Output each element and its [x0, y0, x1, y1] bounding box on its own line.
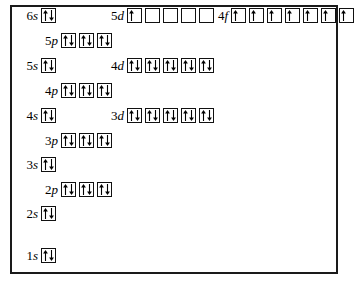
spin-up-arrow-icon [81, 184, 86, 195]
spin-up-arrow-icon [43, 10, 48, 21]
orbital-box [79, 83, 94, 98]
orbital-box [249, 8, 264, 23]
spin-up-arrow-icon [43, 208, 48, 219]
subshell-label-4p: 4p [34, 84, 61, 97]
orbital-box [285, 8, 300, 23]
spin-up-arrow-icon [305, 10, 310, 21]
spin-up-arrow-icon [201, 60, 206, 71]
orbital-box [199, 108, 214, 123]
spin-down-arrow-icon [105, 135, 110, 146]
spin-up-arrow-icon [165, 110, 170, 121]
orbital-box [145, 108, 160, 123]
orbital-box [303, 8, 318, 23]
azimuthal-letter: s [33, 108, 38, 123]
orbital-box-set-5s [41, 58, 56, 73]
spin-up-arrow-icon [43, 110, 48, 121]
spin-down-arrow-icon [49, 10, 54, 21]
orbital-box-set-4d [127, 58, 214, 73]
orbital-box-set-6s [41, 8, 56, 23]
orbital-box [127, 108, 142, 123]
subshell-group-6s: 6s [16, 8, 56, 23]
orbital-box [97, 33, 112, 48]
spin-down-arrow-icon [87, 135, 92, 146]
subshell-label-5d: 5d [100, 9, 127, 22]
orbital-box [163, 108, 178, 123]
spin-down-arrow-icon [49, 60, 54, 71]
orbital-box [145, 8, 160, 23]
spin-down-arrow-icon [171, 60, 176, 71]
subshell-group-4f: 4f [208, 8, 354, 23]
orbital-box [61, 33, 76, 48]
spin-up-arrow-icon [43, 60, 48, 71]
spin-up-arrow-icon [63, 135, 68, 146]
spin-down-arrow-icon [87, 184, 92, 195]
orbital-box-set-5d [127, 8, 214, 23]
orbital-box [41, 108, 56, 123]
subshell-group-5d: 5d [100, 8, 214, 23]
orbital-box [163, 8, 178, 23]
spin-up-arrow-icon [81, 135, 86, 146]
orbital-box-set-2s [41, 206, 56, 221]
orbital-box [61, 182, 76, 197]
orbital-diagram-frame: 6s5d4f5p5s4d4p4s3d3p3s2p2s1s [10, 5, 338, 274]
orbital-box [267, 8, 282, 23]
orbital-box [79, 133, 94, 148]
subshell-label-3s: 3s [16, 158, 41, 171]
spin-up-arrow-icon [99, 184, 104, 195]
orbital-box [339, 8, 354, 23]
spin-down-arrow-icon [207, 60, 212, 71]
orbital-box [61, 83, 76, 98]
subshell-group-5s: 5s [16, 58, 56, 73]
spin-up-arrow-icon [269, 10, 274, 21]
subshell-group-3p: 3p [34, 133, 112, 148]
spin-up-arrow-icon [165, 60, 170, 71]
spin-down-arrow-icon [69, 85, 74, 96]
subshell-label-6s: 6s [16, 9, 41, 22]
orbital-box-set-1s [41, 248, 56, 263]
azimuthal-letter: d [118, 108, 125, 123]
spin-up-arrow-icon [183, 110, 188, 121]
azimuthal-letter: p [52, 33, 59, 48]
azimuthal-letter: d [118, 58, 125, 73]
subshell-label-5s: 5s [16, 59, 41, 72]
azimuthal-letter: f [224, 8, 228, 23]
spin-up-arrow-icon [63, 35, 68, 46]
spin-up-arrow-icon [129, 60, 134, 71]
subshell-label-1s: 1s [16, 249, 41, 262]
spin-up-arrow-icon [233, 10, 238, 21]
spin-up-arrow-icon [183, 60, 188, 71]
subshell-label-3p: 3p [34, 134, 61, 147]
subshell-group-2p: 2p [34, 182, 112, 197]
orbital-box [181, 58, 196, 73]
spin-down-arrow-icon [207, 110, 212, 121]
spin-down-arrow-icon [105, 184, 110, 195]
orbital-box [41, 248, 56, 263]
azimuthal-letter: d [118, 8, 125, 23]
orbital-box [79, 182, 94, 197]
azimuthal-letter: s [33, 206, 38, 221]
spin-up-arrow-icon [147, 60, 152, 71]
spin-up-arrow-icon [147, 110, 152, 121]
orbital-box-set-3d [127, 108, 214, 123]
spin-up-arrow-icon [43, 250, 48, 261]
azimuthal-letter: p [52, 133, 59, 148]
spin-down-arrow-icon [69, 35, 74, 46]
spin-down-arrow-icon [69, 184, 74, 195]
orbital-box [127, 8, 142, 23]
orbital-box [41, 157, 56, 172]
spin-up-arrow-icon [81, 35, 86, 46]
spin-down-arrow-icon [105, 35, 110, 46]
subshell-label-4s: 4s [16, 109, 41, 122]
orbital-box [97, 133, 112, 148]
subshell-label-2s: 2s [16, 207, 41, 220]
orbital-box [41, 58, 56, 73]
spin-down-arrow-icon [153, 60, 158, 71]
subshell-group-1s: 1s [16, 248, 56, 263]
subshell-label-4d: 4d [100, 59, 127, 72]
orbital-rows-container: 6s5d4f5p5s4d4p4s3d3p3s2p2s1s [12, 7, 336, 272]
azimuthal-letter: s [33, 8, 38, 23]
subshell-label-3d: 3d [100, 109, 127, 122]
spin-down-arrow-icon [49, 159, 54, 170]
spin-up-arrow-icon [287, 10, 292, 21]
subshell-group-4d: 4d [100, 58, 214, 73]
